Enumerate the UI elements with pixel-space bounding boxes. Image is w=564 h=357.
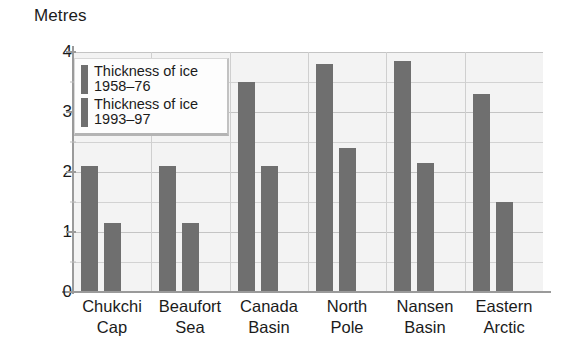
x-axis-category-label-line: Arctic: [465, 317, 543, 338]
legend-item-label: Thickness of ice1958–76: [94, 64, 198, 94]
x-axis-line: [62, 291, 551, 293]
bar-group: [386, 52, 464, 292]
y-axis-ticks: 01234: [34, 0, 72, 357]
bar: [316, 64, 333, 292]
bar: [473, 94, 490, 292]
chart-legend: Thickness of ice1958–76Thickness of ice1…: [74, 58, 229, 136]
legend-item-label-line: 1958–76: [94, 79, 198, 94]
x-axis-category-label-line: Canada: [230, 296, 308, 317]
legend-item-label-line: Thickness of ice: [94, 97, 198, 112]
x-axis-category-label-line: Chukchi: [73, 296, 151, 317]
bar-group: [230, 52, 308, 292]
x-axis-category-label: CanadaBasin: [230, 296, 308, 338]
legend-item-label: Thickness of ice1993–97: [94, 97, 198, 127]
x-axis-category-label-line: Nansen: [386, 296, 464, 317]
x-axis-category-label-line: Beaufort: [151, 296, 229, 317]
y-axis-minor-tick-mark: [70, 262, 76, 263]
legend-item: Thickness of ice1993–97: [81, 97, 221, 127]
bar-group: [465, 52, 543, 292]
legend-swatch-icon: [81, 98, 88, 127]
x-axis-category-labels: ChukchiCapBeaufortSeaCanadaBasinNorthPol…: [73, 296, 543, 354]
x-axis-category-label: EasternArctic: [465, 296, 543, 338]
legend-item: Thickness of ice1958–76: [81, 64, 221, 94]
legend-item-label-line: Thickness of ice: [94, 64, 198, 79]
x-axis-category-label: BeaufortSea: [151, 296, 229, 338]
y-axis-minor-tick-mark: [70, 202, 76, 203]
x-axis-category-label-line: Eastern: [465, 296, 543, 317]
bar: [496, 202, 513, 292]
x-axis-category-label: ChukchiCap: [73, 296, 151, 338]
bar: [81, 166, 98, 292]
bar: [261, 166, 278, 292]
bar-group: [308, 52, 386, 292]
bar: [159, 166, 176, 292]
bar: [182, 223, 199, 292]
x-axis-category-label-line: North: [308, 296, 386, 317]
x-axis-category-label-line: Sea: [151, 317, 229, 338]
bar: [394, 61, 411, 292]
x-axis-category-label: NansenBasin: [386, 296, 464, 338]
y-axis-tick-mark: [66, 291, 76, 293]
ice-thickness-bar-chart: Metres 01234 ChukchiCapBeaufortSeaCanada…: [0, 0, 564, 357]
y-axis-tick-mark: [66, 171, 76, 173]
y-axis-tick-mark: [66, 51, 76, 53]
bar: [104, 223, 121, 292]
x-axis-category-label-line: Basin: [230, 317, 308, 338]
y-axis-tick-mark: [66, 231, 76, 233]
x-axis-category-label: NorthPole: [308, 296, 386, 338]
y-axis-minor-tick-mark: [70, 142, 76, 143]
bar: [339, 148, 356, 292]
bar: [238, 82, 255, 292]
x-axis-category-label-line: Cap: [73, 317, 151, 338]
bar: [417, 163, 434, 292]
x-axis-category-label-line: Pole: [308, 317, 386, 338]
legend-item-label-line: 1993–97: [94, 112, 198, 127]
x-axis-category-label-line: Basin: [386, 317, 464, 338]
legend-swatch-icon: [81, 65, 88, 94]
